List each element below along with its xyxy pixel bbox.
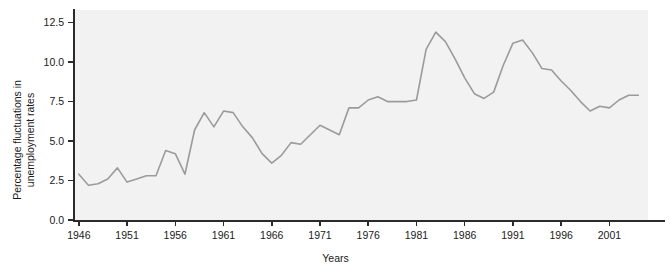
x-tick-mark	[126, 221, 128, 226]
y-tick-mark	[68, 140, 73, 142]
y-tick-mark	[68, 180, 73, 182]
x-tick-mark	[560, 221, 562, 226]
x-tick-label: 1971	[298, 230, 342, 241]
x-tick-label: 1956	[153, 230, 197, 241]
x-tick-mark	[175, 221, 177, 226]
x-tick-mark	[319, 221, 321, 226]
x-tick-label: 1966	[250, 230, 294, 241]
y-tick-label: 2.5	[26, 175, 64, 186]
x-tick-label: 1961	[202, 230, 246, 241]
x-axis-title: Years	[0, 252, 671, 264]
x-tick-label: 1951	[105, 230, 149, 241]
y-tick-label: 0.0	[26, 215, 64, 226]
y-tick-mark	[68, 101, 73, 103]
data-line-svg	[74, 10, 648, 220]
x-tick-label: 1991	[491, 230, 535, 241]
x-tick-mark	[464, 221, 466, 226]
x-tick-mark	[78, 221, 80, 226]
x-tick-mark	[416, 221, 418, 226]
data-line-series	[79, 32, 639, 185]
x-tick-label: 1981	[394, 230, 438, 241]
x-tick-mark	[271, 221, 273, 226]
y-tick-mark	[68, 22, 73, 24]
y-axis-spine	[73, 9, 75, 221]
y-tick-label: 5.0	[26, 136, 64, 147]
x-tick-label: 1996	[539, 230, 583, 241]
x-tick-mark	[512, 221, 514, 226]
y-tick-label: 10.0	[26, 57, 64, 68]
x-tick-label: 1986	[443, 230, 487, 241]
y-tick-label: 7.5	[26, 96, 64, 107]
y-tick-mark	[68, 219, 73, 221]
chart-figure: Percentage fluctuations in unemployment …	[0, 0, 671, 280]
x-axis-spine	[73, 220, 665, 222]
x-tick-label: 1946	[57, 230, 101, 241]
plot-area	[74, 10, 648, 220]
x-tick-label: 2001	[587, 230, 631, 241]
x-tick-label: 1976	[346, 230, 390, 241]
x-tick-mark	[223, 221, 225, 226]
y-tick-label: 12.5	[26, 17, 64, 28]
y-tick-mark	[68, 61, 73, 63]
x-tick-mark	[609, 221, 611, 226]
x-tick-mark	[367, 221, 369, 226]
